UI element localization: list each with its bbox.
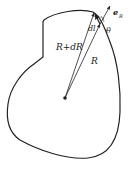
vector-e-r	[100, 6, 110, 24]
diagram-canvas: R+dR R dl θ e R	[0, 0, 131, 169]
label-dl: dl	[88, 24, 96, 33]
closed-curve-outline	[7, 10, 120, 158]
label-r-plus-dr: R+dR	[55, 42, 83, 52]
label-e-r: e	[113, 7, 118, 17]
label-e-r-subscript: R	[118, 13, 123, 19]
label-theta: θ	[106, 26, 111, 35]
label-r: R	[90, 56, 98, 66]
